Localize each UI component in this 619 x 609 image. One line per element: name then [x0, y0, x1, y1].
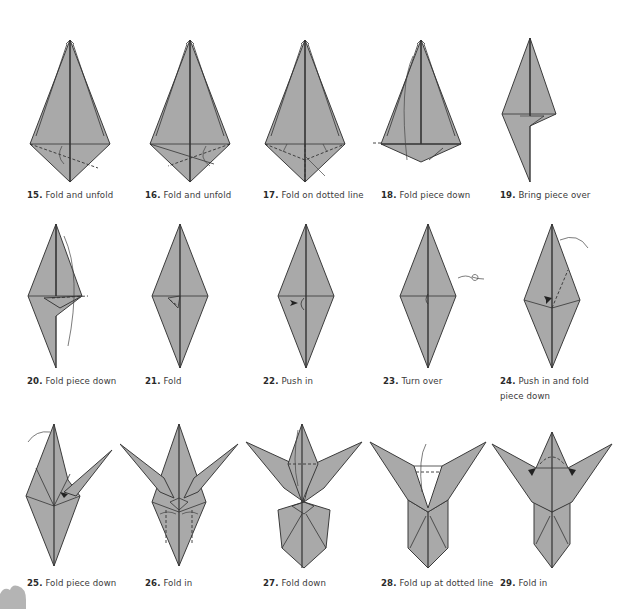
- step-23-caption: 23. Turn over: [383, 374, 442, 389]
- step-21-caption: 21. Fold: [145, 374, 182, 389]
- step-17-figure: [263, 36, 349, 186]
- step-number: 25.: [27, 578, 43, 588]
- step-number: 23.: [383, 376, 399, 386]
- step-instruction: Fold piece down: [399, 190, 470, 200]
- decorative-shape: [0, 584, 28, 609]
- step-number: 22.: [263, 376, 279, 386]
- step-instruction: Fold piece down: [45, 376, 116, 386]
- step-15-caption: 15. Fold and unfold: [27, 188, 113, 203]
- step-29-figure: [490, 428, 614, 570]
- step-number: 18.: [381, 190, 397, 200]
- step-number: 26.: [145, 578, 161, 588]
- step-20-figure: [26, 222, 96, 370]
- step-number: 24.: [500, 376, 516, 386]
- step-instruction: Fold: [163, 376, 181, 386]
- step-instruction: Fold in: [163, 578, 192, 588]
- step-16-caption: 16. Fold and unfold: [145, 188, 231, 203]
- step-instruction: Turn over: [401, 376, 442, 386]
- step-number: 21.: [145, 376, 161, 386]
- step-16-figure: [148, 36, 234, 186]
- step-20-caption: 20. Fold piece down: [27, 374, 116, 389]
- step-19-caption: 19. Bring piece over: [500, 188, 590, 203]
- step-number: 29.: [500, 578, 516, 588]
- step-number: 20.: [27, 376, 43, 386]
- step-27-figure: [244, 420, 364, 570]
- step-18-caption: 18. Fold piece down: [381, 188, 470, 203]
- step-number: 16.: [145, 190, 161, 200]
- step-number: 27.: [263, 578, 279, 588]
- step-instruction: Fold and unfold: [163, 190, 231, 200]
- step-instruction: Fold on dotted line: [281, 190, 363, 200]
- step-27-caption: 27. Fold down: [263, 576, 326, 591]
- step-26-caption: 26. Fold in: [145, 576, 192, 591]
- step-29-caption: 29. Fold in: [500, 576, 547, 591]
- step-19-figure: [500, 36, 562, 186]
- step-number: 17.: [263, 190, 279, 200]
- step-26-figure: [120, 420, 240, 570]
- step-24-figure: [522, 220, 602, 370]
- step-18-figure: [373, 36, 463, 176]
- step-instruction: Bring piece over: [518, 190, 590, 200]
- step-23-figure: [398, 222, 488, 370]
- step-22-caption: 22. Push in: [263, 374, 313, 389]
- step-24-caption: 24. Push in and fold piece down: [500, 374, 596, 404]
- step-number: 19.: [500, 190, 516, 200]
- step-number: 15.: [27, 190, 43, 200]
- step-25-caption: 25. Fold piece down: [27, 576, 116, 591]
- step-15-figure: [28, 36, 114, 186]
- turn-over-icon: [458, 275, 484, 281]
- step-28-figure: [368, 420, 488, 570]
- step-instruction: Fold down: [281, 578, 326, 588]
- step-instruction: Fold in: [518, 578, 547, 588]
- step-22-figure: [276, 222, 336, 370]
- step-25-figure: [24, 420, 116, 570]
- step-instruction: Push in: [281, 376, 313, 386]
- step-instruction: Fold piece down: [45, 578, 116, 588]
- step-21-figure: [150, 222, 210, 370]
- step-17-caption: 17. Fold on dotted line: [263, 188, 364, 203]
- step-instruction: Fold and unfold: [45, 190, 113, 200]
- step-number: 28.: [381, 578, 397, 588]
- step-28-caption: 28. Fold up at dotted line: [381, 576, 493, 591]
- step-instruction: Fold up at dotted line: [399, 578, 493, 588]
